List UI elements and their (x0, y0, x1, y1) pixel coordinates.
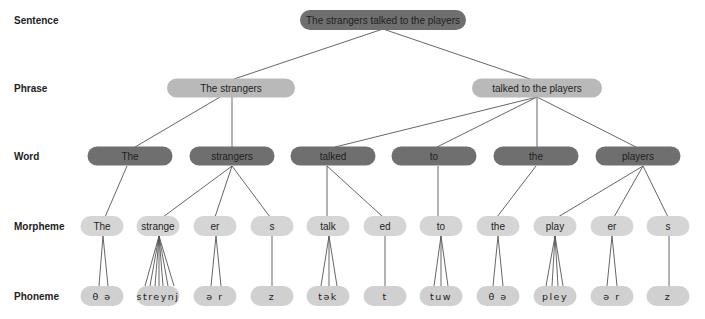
morpheme-node: s (251, 216, 294, 236)
phrase-node: talked to the players (472, 79, 602, 98)
phoneme-node: z (251, 286, 294, 306)
morpheme-node: er (591, 216, 634, 236)
phoneme-node: streynj (137, 286, 180, 306)
phoneme-node: t (364, 286, 407, 306)
word-node: The (88, 147, 173, 166)
phoneme-node: ə r (194, 286, 237, 306)
row-label-phoneme: Phoneme (14, 291, 59, 302)
sentence-node: The strangers talked to the players (300, 10, 466, 30)
word-node: the (494, 147, 579, 166)
row-label-word: Word (14, 151, 39, 162)
morpheme-node: s (647, 216, 690, 236)
row-label-sentence: Sentence (14, 15, 58, 26)
phoneme-node: pley (534, 286, 577, 306)
morpheme-node: The (81, 216, 124, 236)
phoneme-node: θ ə (81, 286, 124, 306)
morpheme-node: er (194, 216, 237, 236)
word-node: to (392, 147, 477, 166)
phoneme-node: ə r (591, 286, 634, 306)
phrase-node: The strangers (167, 79, 295, 98)
morpheme-node: the (477, 216, 520, 236)
row-label-morpheme: Morpheme (14, 221, 65, 232)
phoneme-node: tuw (420, 286, 463, 306)
morpheme-node: to (420, 216, 463, 236)
word-node: strangers (190, 147, 275, 166)
phoneme-node: tək (307, 286, 350, 306)
linguistic-hierarchy-diagram: Sentence Phrase Word Morpheme Phoneme Th… (0, 0, 705, 319)
row-label-phrase: Phrase (14, 83, 47, 94)
morpheme-node: ed (364, 216, 407, 236)
morpheme-node: talk (307, 216, 350, 236)
morpheme-node: play (534, 216, 577, 236)
phoneme-node: z (647, 286, 690, 306)
word-node: players (596, 147, 681, 166)
word-node: talked (291, 147, 376, 166)
morpheme-node: strange (137, 216, 180, 236)
phoneme-node: θ ə (477, 286, 520, 306)
